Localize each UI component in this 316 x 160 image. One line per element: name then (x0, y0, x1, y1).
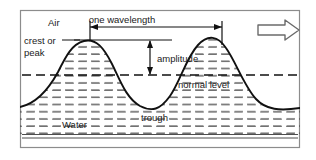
label-crest-line2: peak (24, 47, 45, 58)
label-amplitude: amplitude (157, 53, 198, 64)
wave-diagram-canvas: Air one wavelength crest or peak amplitu… (0, 0, 316, 160)
label-trough: trough (141, 112, 168, 123)
label-normal-level: normal level (178, 79, 229, 90)
label-wavelength: one wavelength (89, 14, 156, 25)
wave-diagram-figure: Air one wavelength crest or peak amplitu… (0, 0, 316, 160)
label-air: Air (48, 17, 60, 28)
label-water: Water (62, 119, 87, 130)
label-crest-line1: crest or (24, 35, 56, 46)
